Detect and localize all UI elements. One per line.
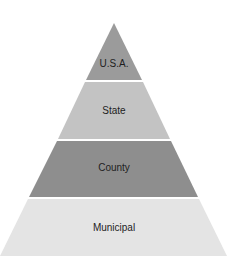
level-state-label: State [102, 105, 126, 116]
level-usa [86, 23, 142, 80]
level-municipal-label: Municipal [93, 222, 135, 233]
pyramid-diagram: U.S.A. State County Municipal [0, 0, 237, 267]
level-usa-label: U.S.A. [100, 58, 129, 69]
level-county-label: County [98, 162, 130, 173]
